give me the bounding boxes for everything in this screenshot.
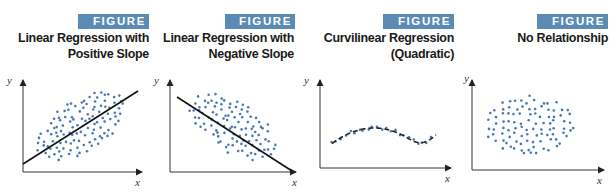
- data-point: [525, 102, 528, 105]
- plot-2-points: [188, 93, 276, 162]
- data-point: [523, 152, 526, 155]
- data-point: [540, 105, 543, 108]
- data-point: [521, 149, 524, 152]
- data-point: [534, 108, 537, 111]
- data-point: [562, 131, 565, 134]
- data-point: [241, 149, 244, 152]
- data-point: [555, 138, 558, 141]
- data-point: [212, 111, 215, 114]
- data-point: [53, 153, 56, 156]
- data-point: [198, 117, 201, 120]
- data-point: [520, 123, 523, 126]
- y-axis-label: y: [303, 74, 309, 86]
- data-point: [65, 141, 68, 144]
- data-point: [118, 107, 121, 110]
- data-point: [547, 109, 550, 112]
- plot-2-regression-line: [177, 97, 292, 171]
- data-point: [63, 110, 66, 113]
- data-point: [516, 108, 519, 111]
- data-point: [194, 102, 197, 105]
- data-point: [240, 143, 243, 146]
- data-point: [229, 103, 232, 106]
- data-point: [525, 129, 528, 132]
- data-point: [84, 120, 87, 123]
- data-point: [521, 135, 524, 138]
- data-point: [489, 112, 492, 115]
- data-point: [512, 113, 515, 116]
- data-point: [103, 120, 106, 123]
- data-point: [526, 140, 529, 143]
- data-point: [254, 131, 257, 134]
- data-point: [252, 125, 255, 128]
- data-point: [413, 138, 416, 141]
- data-point: [114, 123, 117, 126]
- data-point: [100, 105, 103, 108]
- data-point: [71, 126, 74, 129]
- data-point: [56, 111, 59, 114]
- data-point: [542, 122, 545, 125]
- data-point: [568, 113, 571, 116]
- data-point: [113, 96, 116, 99]
- data-point: [222, 117, 225, 120]
- data-point: [547, 149, 550, 152]
- data-point: [70, 102, 73, 105]
- data-point: [247, 121, 250, 124]
- data-point: [44, 152, 47, 155]
- data-point: [96, 96, 99, 99]
- data-point: [217, 135, 220, 138]
- data-point: [67, 108, 70, 111]
- data-point: [514, 127, 517, 130]
- data-point: [50, 133, 53, 136]
- data-point: [502, 139, 505, 142]
- data-point: [93, 129, 96, 132]
- data-point: [114, 115, 117, 118]
- data-point: [104, 106, 107, 109]
- data-point: [521, 105, 524, 108]
- data-point: [501, 101, 504, 104]
- data-point: [267, 148, 270, 151]
- data-point: [257, 134, 260, 137]
- data-point: [71, 116, 74, 119]
- data-point: [559, 114, 562, 117]
- data-point: [39, 133, 42, 136]
- data-point: [97, 143, 100, 146]
- data-point: [535, 122, 538, 125]
- data-point: [56, 147, 59, 150]
- data-point: [59, 142, 62, 145]
- data-point: [62, 124, 65, 127]
- data-point: [508, 136, 511, 139]
- data-point: [96, 121, 99, 124]
- scatter-plots: y x y x y x y x: [0, 0, 609, 196]
- data-point: [549, 128, 552, 131]
- data-point: [224, 114, 227, 117]
- data-point: [57, 159, 60, 162]
- data-point: [246, 110, 249, 113]
- data-point: [237, 150, 240, 153]
- data-point: [246, 154, 249, 157]
- data-point: [214, 93, 217, 96]
- data-point: [553, 116, 556, 119]
- data-point: [231, 137, 234, 140]
- data-point: [507, 120, 510, 123]
- data-point: [223, 99, 226, 102]
- data-point: [488, 128, 491, 131]
- data-point: [263, 149, 266, 152]
- data-point: [549, 122, 552, 125]
- y-axis-label: y: [463, 72, 469, 84]
- data-point: [76, 146, 79, 149]
- data-point: [101, 117, 104, 120]
- plot-3-axes: y x: [303, 74, 451, 184]
- data-point: [555, 101, 558, 104]
- data-point: [236, 100, 239, 103]
- data-point: [93, 123, 96, 126]
- data-point: [394, 129, 397, 132]
- data-point: [502, 120, 505, 123]
- data-point: [215, 113, 218, 116]
- data-point: [563, 127, 566, 130]
- data-point: [87, 113, 90, 116]
- data-point: [273, 148, 276, 151]
- data-point: [534, 112, 537, 115]
- data-point: [104, 94, 107, 97]
- data-point: [78, 152, 81, 155]
- data-point: [236, 140, 239, 143]
